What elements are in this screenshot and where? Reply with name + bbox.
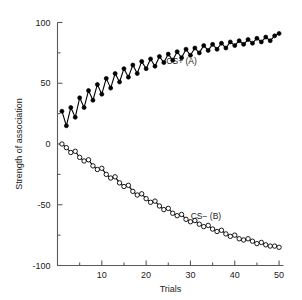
data-point-marker [246,38,250,42]
data-point-marker [148,200,152,204]
data-point-marker [95,82,99,86]
y-tick-label: -100 [32,261,50,271]
data-point-marker [184,217,188,221]
series-cs-plus [60,31,281,127]
data-point-marker [219,41,223,45]
data-point-marker [268,39,272,43]
series-label-cs-plus-a: CS+ (A) [166,56,197,66]
data-point-marker [162,207,166,211]
data-point-marker [60,109,64,113]
data-point-marker [277,245,281,249]
series-label-cs-minus-b: CS− (B) [191,211,222,221]
strength-of-association-chart: 100500-50-1001020304050 CS+ (A)CS− (B) T… [0,0,302,300]
y-axis-title: Strength of association [14,98,24,190]
data-point-marker [100,166,104,170]
data-point-marker [215,229,219,233]
data-point-marker [206,223,210,227]
x-axis-title: Trials [160,284,182,294]
data-point-marker [175,50,179,54]
data-point-marker [117,181,121,185]
data-point-marker [215,47,219,51]
data-point-marker [113,72,117,76]
data-point-marker [193,46,197,50]
data-point-marker [197,51,201,55]
data-point-marker [140,59,144,63]
data-point-marker [122,184,126,188]
data-point-marker [268,244,272,248]
data-point-marker [206,48,210,52]
data-point-marker [184,47,188,51]
data-point-marker [179,212,183,216]
data-point-marker [95,167,99,171]
data-point-marker [241,238,245,242]
series-annotations: CS+ (A)CS− (B) [166,56,221,222]
data-point-marker [246,237,250,241]
y-tick-label: 100 [35,18,50,28]
y-tick-label: 50 [40,78,50,88]
x-tick-label: 40 [230,270,240,280]
x-tick-label: 30 [185,270,195,280]
data-point-marker [171,211,175,215]
data-point-marker [149,57,153,61]
data-point-marker [277,31,281,35]
data-point-marker [202,224,206,228]
data-point-marker [91,164,95,168]
data-point-marker [73,115,77,119]
data-point-marker [69,150,73,154]
data-point-marker [86,158,90,162]
data-point-marker [202,44,206,48]
data-point-marker [157,55,161,59]
data-point-marker [131,189,135,193]
data-point-marker [104,76,108,80]
data-point-marker [250,41,254,45]
data-point-marker [140,192,144,196]
data-point-marker [237,237,241,241]
data-point-marker [82,106,86,110]
data-point-marker [233,233,237,237]
data-point-marker [255,36,259,40]
data-point-marker [264,243,268,247]
data-point-marker [113,175,117,179]
data-point-marker [135,72,139,76]
data-point-marker [135,193,139,197]
data-point-marker [228,40,232,44]
series-cs-minus [60,142,282,250]
data-point-marker [233,44,237,48]
data-point-marker [126,75,130,79]
data-point-marker [157,204,161,208]
data-point-marker [126,183,130,187]
data-point-marker [242,42,246,46]
y-tick-label: 0 [45,139,50,149]
data-point-marker [64,145,68,149]
data-point-marker [64,124,68,128]
series-line [62,144,279,247]
data-point-marker [272,244,276,248]
data-point-marker [118,80,122,84]
data-point-marker [228,234,232,238]
data-point-marker [73,149,77,153]
chart-figure: 100500-50-1001020304050 CS+ (A)CS− (B) T… [0,0,302,300]
data-point-marker [144,67,148,71]
data-point-marker [250,239,254,243]
data-point-marker [104,172,108,176]
data-point-marker [219,228,223,232]
data-point-marker [82,159,86,163]
data-point-marker [77,155,81,159]
data-point-marker [122,67,126,71]
y-tick-label: -50 [37,200,50,210]
data-point-marker [144,196,148,200]
data-point-marker [259,40,263,44]
data-point-marker [210,227,214,231]
data-point-marker [264,35,268,39]
data-point-marker [109,86,113,90]
data-point-marker [224,46,228,50]
data-point-marker [237,39,241,43]
data-point-marker [78,96,82,100]
x-tick-label: 10 [97,270,107,280]
data-point-marker [108,176,112,180]
data-point-marker [100,92,104,96]
data-point-marker [60,142,64,146]
data-point-marker [259,240,263,244]
data-point-marker [91,98,95,102]
data-point-marker [166,206,170,210]
